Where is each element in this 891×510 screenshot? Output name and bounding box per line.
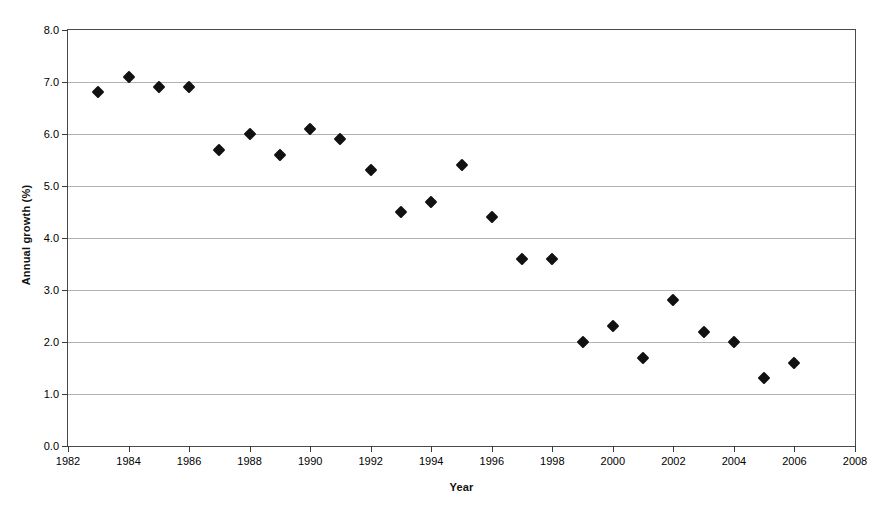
x-axis-tick bbox=[310, 446, 311, 452]
y-axis-tick bbox=[62, 30, 68, 31]
x-axis-tick bbox=[492, 446, 493, 452]
x-axis-tick bbox=[613, 446, 614, 452]
x-axis-tick-label: 2000 bbox=[601, 455, 625, 467]
y-axis-tick bbox=[62, 394, 68, 395]
x-axis-tick bbox=[673, 446, 674, 452]
y-gridline bbox=[68, 290, 855, 291]
y-axis-title: Annual growth (%) bbox=[20, 115, 32, 355]
x-axis-tick bbox=[189, 446, 190, 452]
data-point bbox=[637, 351, 650, 364]
x-axis-tick-label: 1984 bbox=[116, 455, 140, 467]
x-axis-tick-label: 1994 bbox=[419, 455, 443, 467]
plot-area: 0.01.02.03.04.05.06.07.08.01982198419861… bbox=[67, 29, 856, 447]
data-point bbox=[485, 211, 498, 224]
x-axis-tick-label: 1988 bbox=[237, 455, 261, 467]
y-axis-tick-label: 8.0 bbox=[44, 24, 59, 36]
x-axis-tick bbox=[431, 446, 432, 452]
y-axis-tick bbox=[62, 342, 68, 343]
data-point bbox=[788, 356, 801, 369]
x-axis-tick bbox=[250, 446, 251, 452]
y-gridline bbox=[68, 394, 855, 395]
x-axis-tick-label: 2004 bbox=[722, 455, 746, 467]
scatter-chart: Annual growth (%) 0.01.02.03.04.05.06.07… bbox=[0, 0, 891, 510]
x-axis-tick bbox=[855, 446, 856, 452]
data-point bbox=[395, 206, 408, 219]
x-axis-tick-label: 1992 bbox=[358, 455, 382, 467]
y-axis-tick-label: 4.0 bbox=[44, 232, 59, 244]
x-axis-title: Year bbox=[67, 481, 856, 493]
data-point bbox=[213, 143, 226, 156]
data-point bbox=[758, 372, 771, 385]
y-axis-tick-label: 3.0 bbox=[44, 284, 59, 296]
data-point bbox=[546, 252, 559, 265]
x-axis-tick bbox=[371, 446, 372, 452]
y-axis-tick-label: 0.0 bbox=[44, 440, 59, 452]
x-axis-tick-label: 2008 bbox=[843, 455, 867, 467]
data-point bbox=[425, 195, 438, 208]
x-axis-tick-label: 1986 bbox=[177, 455, 201, 467]
data-point bbox=[455, 159, 468, 172]
x-axis-tick bbox=[734, 446, 735, 452]
x-axis-tick-label: 2002 bbox=[661, 455, 685, 467]
x-axis-tick-label: 1998 bbox=[540, 455, 564, 467]
y-gridline bbox=[68, 186, 855, 187]
y-axis-tick bbox=[62, 238, 68, 239]
data-point bbox=[606, 320, 619, 333]
x-axis-tick-label: 1996 bbox=[480, 455, 504, 467]
data-point bbox=[667, 294, 680, 307]
y-axis-tick-label: 1.0 bbox=[44, 388, 59, 400]
x-axis-tick-label: 1982 bbox=[56, 455, 80, 467]
y-axis-tick bbox=[62, 134, 68, 135]
data-point bbox=[364, 164, 377, 177]
data-point bbox=[576, 336, 589, 349]
x-axis-tick-label: 1990 bbox=[298, 455, 322, 467]
data-point bbox=[243, 128, 256, 141]
data-point bbox=[697, 325, 710, 338]
y-axis-tick bbox=[62, 82, 68, 83]
x-axis-tick bbox=[68, 446, 69, 452]
y-axis-tick-label: 2.0 bbox=[44, 336, 59, 348]
x-axis-tick bbox=[552, 446, 553, 452]
y-axis-tick-label: 6.0 bbox=[44, 128, 59, 140]
y-axis-tick bbox=[62, 186, 68, 187]
y-axis-tick-label: 5.0 bbox=[44, 180, 59, 192]
y-gridline bbox=[68, 134, 855, 135]
x-axis-tick-label: 2006 bbox=[782, 455, 806, 467]
x-axis-tick bbox=[794, 446, 795, 452]
y-gridline bbox=[68, 238, 855, 239]
y-axis-tick-label: 7.0 bbox=[44, 76, 59, 88]
data-point bbox=[274, 148, 287, 161]
data-point bbox=[728, 336, 741, 349]
data-point bbox=[516, 252, 529, 265]
data-point bbox=[92, 86, 105, 99]
x-axis-tick bbox=[129, 446, 130, 452]
y-axis-tick bbox=[62, 290, 68, 291]
